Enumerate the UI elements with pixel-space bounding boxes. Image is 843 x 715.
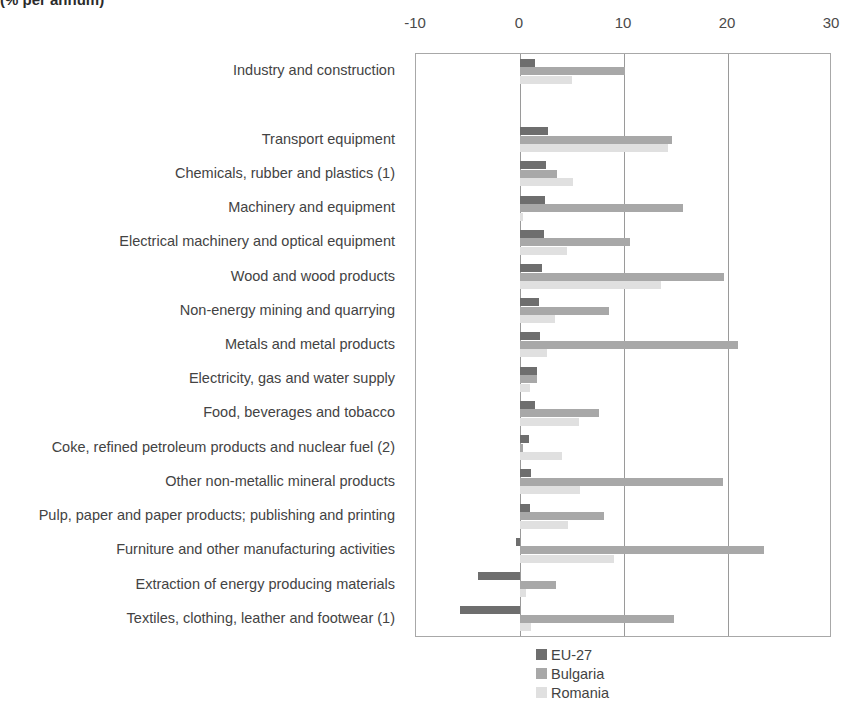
bar-bulgaria xyxy=(520,341,738,349)
chart-subtitle: (% per annum) xyxy=(0,0,104,8)
bar-bulgaria xyxy=(520,204,683,212)
bar-group xyxy=(416,568,830,602)
bar-bulgaria xyxy=(520,375,537,383)
bar-eu-27 xyxy=(520,298,539,306)
category-label: Pulp, paper and paper products; publishi… xyxy=(39,507,395,523)
bar-bulgaria xyxy=(520,512,604,520)
bar-bulgaria xyxy=(520,409,599,417)
bar-eu-27 xyxy=(520,401,535,409)
plot-area xyxy=(415,53,831,637)
bar-romania xyxy=(520,623,531,631)
bar-romania xyxy=(520,452,562,460)
category-label: Textiles, clothing, leather and footwear… xyxy=(127,610,395,626)
bar-romania xyxy=(520,555,614,563)
category-label: Chemicals, rubber and plastics (1) xyxy=(175,165,395,181)
bar-group xyxy=(416,362,830,396)
bar-group xyxy=(416,122,830,156)
bar-romania xyxy=(520,281,661,289)
category-label: Machinery and equipment xyxy=(228,199,395,215)
category-label: Wood and wood products xyxy=(231,268,395,284)
category-label: Furniture and other manufacturing activi… xyxy=(116,541,395,557)
legend-item-romania: Romania xyxy=(536,683,736,702)
category-label: Coke, refined petroleum products and nuc… xyxy=(52,439,395,455)
x-tick-label-0: 0 xyxy=(515,14,523,31)
bar-eu-27 xyxy=(516,538,520,546)
bar-romania xyxy=(520,315,555,323)
x-tick-label-10: 10 xyxy=(615,14,632,31)
legend-swatch-icon xyxy=(536,687,547,698)
bar-group xyxy=(416,88,830,122)
bar-group xyxy=(416,499,830,533)
bar-eu-27 xyxy=(520,435,529,443)
bar-bulgaria xyxy=(520,581,556,589)
bar-bulgaria xyxy=(520,170,557,178)
bar-group xyxy=(416,294,830,328)
legend-item-bulgaria: Bulgaria xyxy=(536,664,736,683)
category-label: Electrical machinery and optical equipme… xyxy=(119,233,395,249)
bar-romania xyxy=(520,178,573,186)
bar-bulgaria xyxy=(520,615,674,623)
bar-romania xyxy=(520,76,572,84)
bar-group xyxy=(416,465,830,499)
bar-group xyxy=(416,157,830,191)
bar-bulgaria xyxy=(520,136,672,144)
category-label: Non-energy mining and quarrying xyxy=(180,302,395,318)
bar-group xyxy=(416,602,830,636)
bar-romania xyxy=(520,418,579,426)
category-label: Food, beverages and tobacco xyxy=(203,404,395,420)
bar-eu-27 xyxy=(520,127,548,135)
category-label: Industry and construction xyxy=(233,62,395,78)
bar-eu-27 xyxy=(520,469,531,477)
bar-group xyxy=(416,328,830,362)
bar-group xyxy=(416,431,830,465)
bar-eu-27 xyxy=(520,332,540,340)
bar-romania xyxy=(520,486,580,494)
bar-bulgaria xyxy=(520,546,764,554)
bar-group xyxy=(416,396,830,430)
bar-romania xyxy=(520,349,547,357)
bar-eu-27 xyxy=(460,606,520,614)
bar-bulgaria xyxy=(520,67,625,75)
category-label-column: Industry and constructionTransport equip… xyxy=(0,53,405,637)
bar-group xyxy=(416,225,830,259)
bar-eu-27 xyxy=(520,161,546,169)
legend-label: EU-27 xyxy=(551,647,592,663)
bar-romania xyxy=(520,521,568,529)
bar-eu-27 xyxy=(520,367,537,375)
bar-romania xyxy=(520,589,526,597)
bar-group xyxy=(416,533,830,567)
legend-item-eu-27: EU-27 xyxy=(536,645,736,664)
bar-eu-27 xyxy=(520,230,544,238)
category-label: Extraction of energy producing materials xyxy=(135,576,395,592)
category-label: Other non-metallic mineral products xyxy=(165,473,395,489)
bar-eu-27 xyxy=(520,264,542,272)
legend-swatch-icon xyxy=(536,649,547,660)
category-label: Metals and metal products xyxy=(225,336,395,352)
bar-group xyxy=(416,259,830,293)
bar-eu-27 xyxy=(478,572,520,580)
bar-romania xyxy=(520,247,567,255)
bar-bulgaria xyxy=(520,273,724,281)
bar-eu-27 xyxy=(520,59,535,67)
x-axis-label-row: -100102030 xyxy=(0,14,843,38)
legend-label: Romania xyxy=(551,685,609,701)
x-tick-label-20: 20 xyxy=(719,14,736,31)
bar-bulgaria xyxy=(520,238,630,246)
x-tick-label-neg10: -10 xyxy=(404,14,426,31)
x-tick-label-30: 30 xyxy=(823,14,840,31)
bar-group xyxy=(416,54,830,88)
chart-legend: EU-27BulgariaRomania xyxy=(536,645,736,702)
bar-group xyxy=(416,191,830,225)
bar-bulgaria xyxy=(520,444,523,452)
bar-romania xyxy=(520,384,530,392)
bar-eu-27 xyxy=(520,504,530,512)
category-label: Transport equipment xyxy=(262,131,395,147)
bar-romania xyxy=(520,144,668,152)
bar-bulgaria xyxy=(520,478,723,486)
legend-swatch-icon xyxy=(536,668,547,679)
bar-romania xyxy=(520,213,523,221)
bar-bulgaria xyxy=(520,307,609,315)
category-label: Electricity, gas and water supply xyxy=(189,370,395,386)
legend-label: Bulgaria xyxy=(551,666,604,682)
bar-eu-27 xyxy=(520,196,545,204)
